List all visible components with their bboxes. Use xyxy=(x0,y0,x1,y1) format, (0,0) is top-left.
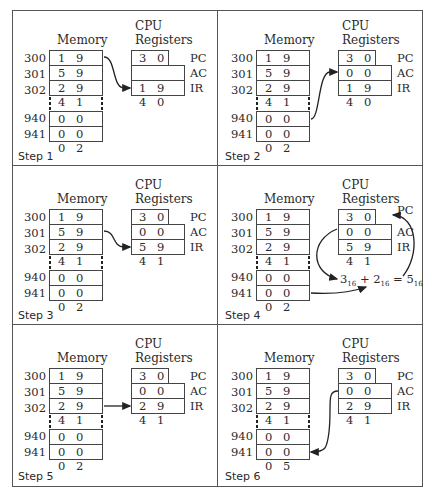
address-label: 940 xyxy=(16,111,46,125)
address-label: 941 xyxy=(223,286,253,300)
step-label: Step 5 xyxy=(18,470,54,483)
memory-cell: 5 9 4 1 xyxy=(49,224,103,240)
registers-header: Registers xyxy=(135,192,193,206)
ellipsis-dots xyxy=(49,256,51,270)
memory-cell: 5 9 4 1 xyxy=(256,224,310,240)
ir-label: IR xyxy=(397,240,410,254)
address-label: 300 xyxy=(16,210,46,224)
pc-label: PC xyxy=(397,203,414,217)
address-label: 300 xyxy=(16,51,46,65)
ac-register xyxy=(131,65,185,81)
pc-register: 3 0 2 xyxy=(131,368,169,384)
cpu-header: CPU xyxy=(342,178,369,192)
step-label: Step 1 xyxy=(18,150,54,163)
ir-register: 1 9 4 0 xyxy=(338,80,392,96)
address-label: 302 xyxy=(16,83,46,97)
memory-cell: 0 0 0 2 xyxy=(49,444,103,460)
ac-label: AC xyxy=(190,384,207,398)
cpu-header: CPU xyxy=(135,19,162,33)
step-label: Step 2 xyxy=(225,150,261,163)
address-label: 941 xyxy=(16,127,46,141)
memory-cell: 0 0 0 2 xyxy=(49,126,103,142)
pc-register: 3 0 2 xyxy=(338,368,376,384)
ellipsis-dots xyxy=(101,256,103,270)
pc-label: PC xyxy=(397,51,414,65)
pc-label: PC xyxy=(190,51,207,65)
address-label: 302 xyxy=(16,242,46,256)
registers-header: Registers xyxy=(135,33,193,47)
ac-label: AC xyxy=(190,66,207,80)
ac-register: 0 0 0 5 xyxy=(131,383,185,399)
ellipsis-dots xyxy=(49,415,51,429)
memory-cell: 1 9 4 0 xyxy=(256,50,310,66)
memory-cell: 0 0 0 3 xyxy=(49,111,103,127)
cpu-header: CPU xyxy=(135,178,162,192)
pc-register: 3 0 1 xyxy=(131,209,169,225)
memory-cell: 5 9 4 1 xyxy=(49,383,103,399)
ac-label: AC xyxy=(397,66,414,80)
cpu-header: CPU xyxy=(135,337,162,351)
memory-header: Memory xyxy=(57,192,108,206)
address-label: 301 xyxy=(16,226,46,240)
memory-cell: 2 9 4 1 xyxy=(49,398,103,414)
memory-header: Memory xyxy=(57,33,108,47)
memory-cell: 1 9 4 0 xyxy=(49,209,103,225)
cpu-header: CPU xyxy=(342,19,369,33)
memory-cell: 2 9 4 1 xyxy=(49,239,103,255)
ir-label: IR xyxy=(190,399,203,413)
ir-register: 2 9 4 1 xyxy=(338,398,392,414)
ir-register: 5 9 4 1 xyxy=(338,239,392,255)
row-divider-1 xyxy=(12,165,423,166)
memory-cell: 0 0 0 3 xyxy=(256,270,310,286)
ellipsis-dots xyxy=(256,415,258,429)
column-divider xyxy=(217,10,218,487)
pc-label: PC xyxy=(190,369,207,383)
memory-cell: 2 9 4 1 xyxy=(49,80,103,96)
memory-cell: 1 9 4 0 xyxy=(49,368,103,384)
step-label: Step 3 xyxy=(18,309,54,322)
address-label: 940 xyxy=(16,429,46,443)
memory-cell: 1 9 4 0 xyxy=(256,368,310,384)
ac-register: 0 0 0 3 xyxy=(338,65,392,81)
memory-cell: 0 0 0 2 xyxy=(256,126,310,142)
registers-header: Registers xyxy=(135,351,193,365)
memory-header: Memory xyxy=(264,192,315,206)
ir-label: IR xyxy=(397,81,410,95)
address-label: 301 xyxy=(16,67,46,81)
pc-label: PC xyxy=(397,369,414,383)
address-label: 300 xyxy=(223,210,253,224)
ellipsis-dots xyxy=(101,415,103,429)
address-label: 941 xyxy=(16,445,46,459)
address-label: 940 xyxy=(223,429,253,443)
address-label: 301 xyxy=(16,385,46,399)
memory-header: Memory xyxy=(264,351,315,365)
memory-cell: 0 0 0 3 xyxy=(256,111,310,127)
registers-header: Registers xyxy=(342,351,400,365)
address-label: 302 xyxy=(223,401,253,415)
step-label: Step 4 xyxy=(225,309,261,322)
memory-cell: 5 9 4 1 xyxy=(256,383,310,399)
ir-register: 5 9 4 1 xyxy=(131,239,185,255)
memory-cell: 5 9 4 1 xyxy=(49,65,103,81)
row-divider-2 xyxy=(12,324,423,325)
memory-cell: 0 0 0 3 xyxy=(256,429,310,445)
memory-cell: 0 0 0 2 xyxy=(256,285,310,301)
memory-cell: 0 0 0 5 xyxy=(256,444,310,460)
hex-addition-formula: 316 + 216 = 516 xyxy=(340,272,423,288)
memory-cell: 0 0 0 3 xyxy=(49,270,103,286)
memory-cell: 1 9 4 0 xyxy=(49,50,103,66)
address-label: 940 xyxy=(16,270,46,284)
memory-cell: 5 9 4 1 xyxy=(256,65,310,81)
address-label: 302 xyxy=(16,401,46,415)
ac-register: 0 0 0 3 xyxy=(131,224,185,240)
ellipsis-dots xyxy=(308,256,310,270)
registers-header: Registers xyxy=(342,33,400,47)
memory-cell: 2 9 4 1 xyxy=(256,398,310,414)
ac-register: 0 0 0 5 xyxy=(338,383,392,399)
ac-register: 0 0 0 5 xyxy=(338,224,392,240)
memory-cell: 0 0 0 3 xyxy=(49,429,103,445)
pc-label: PC xyxy=(190,210,207,224)
address-label: 941 xyxy=(16,286,46,300)
address-label: 941 xyxy=(223,445,253,459)
pc-register: 3 0 0 xyxy=(131,50,169,66)
